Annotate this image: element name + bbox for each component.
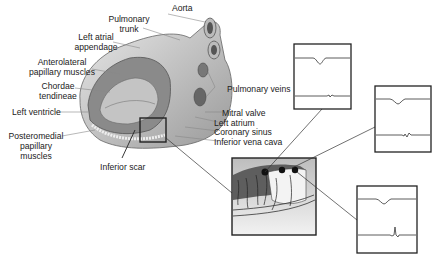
label-anterolateral-2: papillary muscles bbox=[26, 67, 98, 77]
label-inferior-scar: Inferior scar bbox=[100, 162, 145, 172]
electrogram-3 bbox=[357, 186, 417, 253]
label-coronary-sinus: Coronary sinus bbox=[214, 127, 272, 137]
recording-site-2 bbox=[279, 167, 285, 173]
label-mitral-valve: Mitral valve bbox=[222, 108, 265, 118]
label-left-atrial-appendage-2: appendage bbox=[70, 42, 122, 52]
label-pulmonary-veins: Pulmonary veins bbox=[227, 84, 291, 94]
electrogram-2 bbox=[375, 86, 431, 152]
scar-inset bbox=[232, 158, 316, 235]
label-left-atrial-appendage-1: Left atrial bbox=[72, 32, 120, 42]
electrogram-1 bbox=[294, 44, 351, 109]
label-inferior-vena-cava: Inferior vena cava bbox=[214, 137, 282, 147]
label-aorta: Aorta bbox=[172, 3, 193, 13]
label-posteromedial-1: Posteromedial bbox=[8, 131, 64, 141]
label-pulmonary-trunk-1: Pulmonary bbox=[106, 14, 152, 24]
label-posteromedial-3: muscles bbox=[8, 151, 64, 161]
label-chordae-1: Chordae bbox=[38, 81, 78, 91]
label-posteromedial-2: papillary bbox=[8, 141, 64, 151]
label-anterolateral-1: Anterolateral bbox=[30, 57, 94, 67]
label-left-ventricle: Left ventricle bbox=[12, 107, 61, 117]
label-chordae-2: tendineae bbox=[35, 91, 81, 101]
